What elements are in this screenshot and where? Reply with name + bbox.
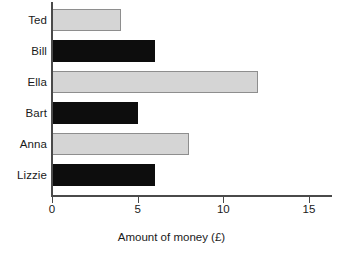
x-axis-line	[51, 195, 332, 197]
x-axis-title: Amount of money (£)	[0, 231, 343, 243]
bar-category-label: Bart	[1, 102, 47, 124]
bar-rect	[52, 40, 155, 62]
bar-category-label: Ted	[1, 9, 47, 31]
bar-category-label: Anna	[1, 133, 47, 155]
x-axis-tick-label: 0	[32, 203, 72, 215]
bar-category-label: Bill	[1, 40, 47, 62]
y-axis-line	[51, 2, 53, 196]
bar-rect	[52, 71, 258, 93]
x-axis-tick-label: 5	[118, 203, 158, 215]
x-axis-tick-label: 15	[289, 203, 329, 215]
bar-rect	[52, 133, 189, 155]
bar-category-label: Ella	[1, 71, 47, 93]
bar-category-label: Lizzie	[1, 164, 47, 186]
bar-rect	[52, 102, 138, 124]
x-axis-tick-label: 10	[203, 203, 243, 215]
bar-rect	[52, 9, 121, 31]
bar-chart: TedBillEllaBartAnnaLizzie Amount of mone…	[0, 0, 343, 258]
bar-rect	[52, 164, 155, 186]
